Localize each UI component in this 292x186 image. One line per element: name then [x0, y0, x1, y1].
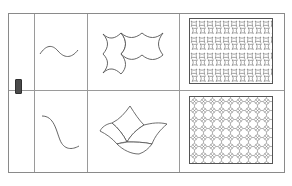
cell-row1-pattern [179, 14, 285, 90]
cell-row2-curve [34, 90, 87, 173]
row-marker[interactable] [15, 79, 22, 94]
curved-quad-tile-cluster-icon [87, 90, 179, 173]
figure-frame [8, 13, 285, 173]
pinwheel-pattern [190, 97, 272, 163]
cell-row1-curve [34, 14, 87, 90]
figure-canvas [0, 0, 292, 186]
cell-row2-tile [87, 90, 179, 173]
cell-row2-pattern [179, 90, 285, 173]
wavy-curve-icon [34, 14, 87, 90]
s-curve-icon [34, 90, 87, 173]
pinwheel-tessellation-box [189, 96, 273, 164]
basketweave-tessellation-box [189, 18, 273, 84]
cell-row1-tile [87, 14, 179, 90]
basketweave-pattern [190, 19, 272, 83]
bone-tile-pair-icon [87, 14, 179, 90]
